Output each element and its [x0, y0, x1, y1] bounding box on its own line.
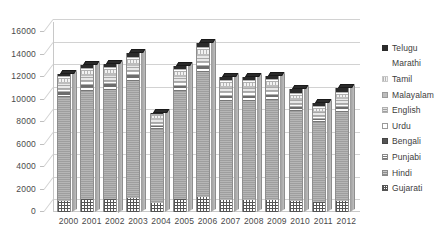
legend-item-label: Marathi [392, 58, 421, 68]
legend-swatch-icon [382, 170, 388, 176]
y-axis-tick-label: 8000 [16, 116, 36, 126]
bar-side-face [141, 50, 146, 212]
bar-segment-hindi [266, 100, 278, 200]
chart-legend: TeluguMarathiTamilMalayalamEnglishUrduBe… [382, 40, 446, 196]
legend-item-english[interactable]: English [382, 102, 446, 118]
bar-top-cap [60, 70, 76, 74]
legend-item-label: Telugu [392, 43, 418, 53]
bar-segment-hindi [151, 129, 163, 203]
bar-segment-gujarati [58, 201, 70, 212]
y-axis-tick-label: 10000 [11, 94, 36, 104]
legend-swatch-icon [382, 185, 388, 191]
bar-top-cap [199, 39, 215, 43]
bar-segment-gujarati [313, 202, 325, 212]
legend-item-bengali[interactable]: Bengali [382, 134, 446, 150]
legend-item-label: Hindi [392, 168, 412, 178]
legend-item-label: Gujarati [392, 183, 423, 193]
stacked-bar[interactable] [80, 65, 94, 212]
legend-swatch-icon [382, 92, 388, 98]
stacked-bar[interactable] [173, 66, 187, 212]
bar-segment-hindi [243, 101, 255, 201]
bar-side-face [257, 74, 262, 212]
stacked-bar[interactable] [57, 74, 71, 212]
stacked-bar[interactable] [126, 53, 140, 212]
bar-side-face [95, 62, 100, 212]
bar-top-cap [315, 99, 331, 103]
legend-swatch-icon [382, 107, 388, 113]
legend-swatch-icon [382, 60, 388, 66]
bar-segment-gujarati [127, 198, 139, 212]
stacked-bar[interactable] [312, 103, 326, 212]
legend-swatch-icon [382, 138, 388, 144]
legend-item-hindi[interactable]: Hindi [382, 165, 446, 181]
bar-side-face [165, 110, 170, 212]
legend-item-telugu[interactable]: Telugu [382, 40, 446, 56]
y-axis-tick-label: 2000 [16, 184, 36, 194]
bar-segment-gujarati [151, 203, 163, 212]
bar-side-face [327, 100, 332, 212]
bar-segment-hindi [313, 122, 325, 202]
bar-segment-hindi [290, 111, 302, 201]
bar-side-face [280, 73, 285, 212]
legend-item-malayalam[interactable]: Malayalam [382, 87, 446, 103]
legend-swatch-icon [382, 76, 388, 82]
bar-top-cap [153, 109, 169, 113]
bar-side-face [211, 40, 216, 212]
legend-swatch-icon [382, 123, 388, 129]
legend-item-marathi[interactable]: Marathi [382, 56, 446, 72]
stacked-bar[interactable] [242, 77, 256, 212]
legend-item-label: English [392, 105, 421, 115]
bar-top-cap [292, 85, 308, 89]
x-axis: 2000200120022003200420052006200720082009… [44, 216, 360, 232]
stacked-bar[interactable] [103, 64, 117, 213]
bar-segment-gujarati [266, 200, 278, 212]
y-axis-tick-label: 6000 [16, 139, 36, 149]
bar-side-face [72, 71, 77, 212]
bar-segment-gujarati [336, 201, 348, 212]
stacked-bar[interactable] [196, 43, 210, 212]
stacked-bar[interactable] [289, 89, 303, 212]
bar-side-face [234, 74, 239, 212]
y-axis-tick-label: 16000 [11, 26, 36, 36]
y-axis-tick-label: 12000 [11, 71, 36, 81]
legend-item-gujarati[interactable]: Gujarati [382, 180, 446, 196]
y-axis-tick-label: 0 [31, 206, 36, 216]
legend-item-label: Punjabi [392, 152, 421, 162]
legend-item-tamil[interactable]: Tamil [382, 71, 446, 87]
bar-segment-hindi [104, 90, 116, 200]
bar-segment-hindi [174, 91, 186, 199]
bar-segment-hindi [127, 81, 139, 198]
bar-segment-gujarati [220, 200, 232, 212]
legend-item-label: Malayalam [392, 90, 434, 100]
bar-side-face [350, 85, 355, 212]
bar-segment-hindi [220, 101, 232, 201]
bar-segment-hindi [197, 72, 209, 197]
legend-item-label: Urdu [392, 121, 411, 131]
bar-segment-gujarati [197, 197, 209, 212]
legend-item-punjabi[interactable]: Punjabi [382, 149, 446, 165]
y-axis: 1600014000120001000080006000400020000 [0, 16, 40, 212]
bar-side-face [188, 63, 193, 212]
bar-segment-hindi [81, 91, 93, 200]
stacked-bar[interactable] [150, 113, 164, 212]
bar-top-cap [268, 72, 284, 76]
bar-top-cap [176, 62, 192, 66]
legend-item-label: Tamil [392, 74, 412, 84]
bar-side-face [304, 86, 309, 212]
legend-item-urdu[interactable]: Urdu [382, 118, 446, 134]
bar-segment-hindi [58, 97, 70, 201]
bar-segment-gujarati [104, 199, 116, 212]
bar-segment-hindi [336, 112, 348, 201]
bar-segment-gujarati [174, 199, 186, 212]
bar-top-cap [106, 60, 122, 64]
stacked-bar[interactable] [219, 77, 233, 212]
x-axis-tick-label: 2012 [331, 216, 362, 226]
bar-segment-gujarati [81, 199, 93, 212]
stacked-bar[interactable] [335, 88, 349, 212]
bar-segment-gujarati [243, 200, 255, 212]
legend-item-label: Bengali [392, 136, 421, 146]
bar-series-layer [44, 16, 360, 212]
legend-swatch-icon [382, 45, 388, 51]
stacked-bar[interactable] [265, 76, 279, 212]
y-axis-tick-label: 14000 [11, 49, 36, 59]
